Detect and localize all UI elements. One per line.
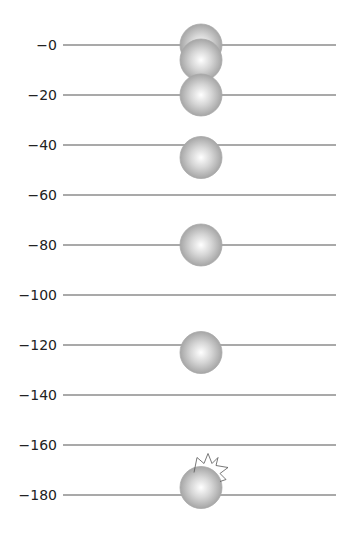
ball-snapshots — [180, 24, 222, 509]
ball — [180, 332, 222, 374]
scale-label: −140 — [19, 388, 57, 402]
scale-label: −20 — [27, 88, 57, 102]
ball — [180, 224, 222, 266]
scale-label: −100 — [19, 288, 57, 302]
scale-label: −80 — [27, 238, 57, 252]
diagram-canvas — [0, 0, 353, 535]
ball — [180, 137, 222, 179]
ball — [180, 467, 222, 509]
free-fall-diagram: −0−20−40−60−80−100−120−140−160−180 — [0, 0, 353, 535]
scale-label: −160 — [19, 438, 57, 452]
scale-label: −120 — [19, 338, 57, 352]
ball — [180, 74, 222, 116]
scale-label: −0 — [36, 38, 57, 52]
scale-label: −40 — [27, 138, 57, 152]
scale-label: −180 — [19, 488, 57, 502]
scale-label: −60 — [27, 188, 57, 202]
